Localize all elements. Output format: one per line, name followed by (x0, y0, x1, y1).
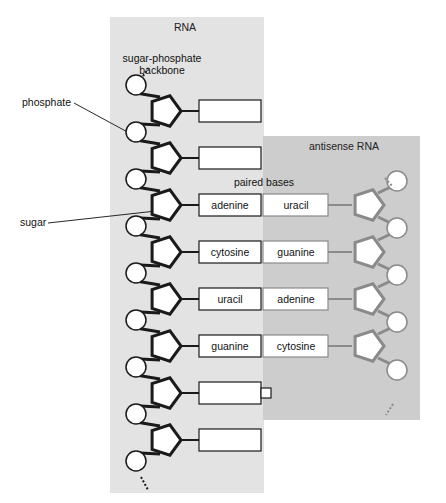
paired-bases-label: paired bases (234, 176, 294, 188)
sugar-label: sugar (20, 216, 47, 228)
antisense-base-label: uracil (283, 199, 308, 211)
rna-base-label: adenine (211, 199, 249, 211)
rna-base-label: cytosine (211, 246, 250, 258)
antisense-base-label: cytosine (277, 340, 316, 352)
rna-base-label: uracil (217, 293, 242, 305)
rna-base-label: guanine (211, 340, 249, 352)
rna-antisense-diagram: RNA antisense RNA sugar-phosphate backbo… (0, 0, 446, 503)
phosphate-circle (126, 122, 146, 142)
rna-base-box (199, 147, 261, 169)
rna-base-box (199, 100, 261, 122)
backbone-label-line1: sugar-phosphate (123, 52, 202, 64)
backbone-label-line2: backbone (139, 64, 185, 76)
rna-panel-title: RNA (174, 21, 196, 33)
phosphate-circle (126, 310, 146, 330)
phosphate-circle (126, 169, 146, 189)
antisense-base-label: guanine (277, 246, 315, 258)
antisense-panel-title: antisense RNA (309, 140, 379, 152)
rna-base-box (199, 429, 261, 451)
phosphate-circle (126, 357, 146, 377)
phosphate-circle (126, 75, 146, 95)
antisense-base-label: adenine (277, 293, 315, 305)
phosphate-label: phosphate (22, 96, 71, 108)
phosphate-circle (126, 216, 146, 236)
phosphate-circle (126, 404, 146, 424)
rna-base-box (199, 382, 261, 404)
phosphate-circle (126, 263, 146, 283)
